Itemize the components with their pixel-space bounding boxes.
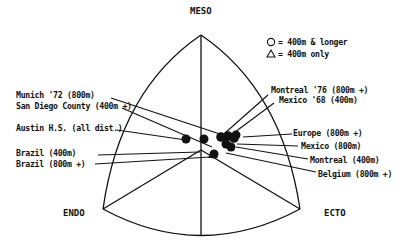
label-san-diego: San Diego County (400m +) [16,101,132,111]
label-montreal-76: Montreal '76 (800m +) [271,85,368,95]
leader-brazil-800 [95,157,210,164]
legend-circle-icon [267,38,274,45]
pole-endo: ENDO [63,208,85,218]
chart-outline-right-arc [201,35,300,209]
label-brazil-400: Brazil (400m) [16,148,76,158]
label-munich: Munich '72 (800m) [16,90,95,100]
chart-outline-left-arc [103,35,201,209]
label-austin: Austin H.S. (all dist.) [16,123,122,133]
legend-circle-text: = 400m & longer [278,37,348,47]
leader-mexico-800 [237,144,298,146]
legend-triangle-text: = 400m only [278,49,329,59]
label-mexico-68: Mexico '68 (400m) [279,95,358,105]
axis-ecto [201,150,300,209]
label-brazil-800: Brazil (800m +) [16,159,85,169]
label-mexico-800: Mexico (800m) [301,141,361,151]
point-austin [182,135,191,144]
point-europe [232,131,241,140]
point-montreal-400 [227,143,236,152]
pole-ecto: ECTO [324,208,346,218]
leader-brazil-400 [98,152,200,155]
pole-meso: MESO [190,6,212,16]
leader-montreal-76 [225,95,268,133]
somatochart: MESO ENDO ECTO = 400m & longer = 400m on… [0,0,399,248]
leader-belgium [226,153,316,172]
leader-europe [243,134,292,137]
label-montreal-400: Montreal (400m) [310,155,379,165]
label-europe: Europe (800m +) [293,128,362,138]
point-san-diego [200,135,209,144]
legend-triangle-icon [267,50,275,57]
label-belgium: Belgium (800m +) [318,169,392,179]
